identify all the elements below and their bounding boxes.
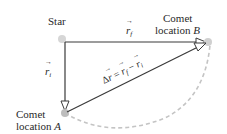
vector-arrow-glyph: → <box>45 59 52 66</box>
comet-location-a-label: Comet location A <box>16 108 61 132</box>
vector-delta-r-arrowhead <box>194 43 206 51</box>
location-word: location <box>155 24 193 36</box>
r-final-symbol: →rf <box>126 24 132 40</box>
location-line: location B <box>155 24 200 36</box>
r-final-label: →rf <box>126 24 132 40</box>
star-label: Star <box>48 15 66 27</box>
comet-label-line: Comet <box>16 108 61 120</box>
r-initial-label: →ri <box>45 65 51 81</box>
subscript-f: f <box>130 30 132 38</box>
location-a-dot <box>61 109 69 117</box>
location-var-b: B <box>193 24 200 36</box>
location-var-a: A <box>54 120 61 132</box>
comet-location-b-label: Comet location B <box>155 12 200 36</box>
comet-label-line: Comet <box>155 12 200 24</box>
vector-arrow-glyph: → <box>126 18 133 25</box>
r-initial-symbol: →ri <box>45 65 51 81</box>
subscript-i: i <box>49 71 51 79</box>
displacement-diagram: Star →rf →ri Comet location B Comet loca… <box>0 0 227 134</box>
star-dot <box>58 35 66 43</box>
location-b-dot <box>204 38 212 46</box>
location-line: location A <box>16 120 61 132</box>
location-word: location <box>16 120 54 132</box>
